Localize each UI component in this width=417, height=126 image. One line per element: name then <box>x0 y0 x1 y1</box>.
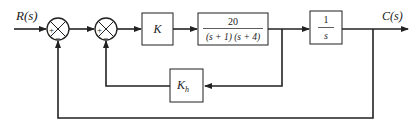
sum1-plus-sign: + <box>49 25 54 35</box>
summing-junction-2: + − <box>95 18 117 43</box>
plant-numerator: 20 <box>228 16 238 27</box>
gain-block: K <box>142 13 173 45</box>
block-diagram: R(s) + − + − K 20 (s + 1) (s + 4) 1 <box>0 0 417 126</box>
integrator-denominator: s <box>324 30 328 41</box>
gain-label: K <box>152 22 162 36</box>
input-label: R(s) <box>15 8 38 23</box>
feedback-gain-to-sum2-path <box>106 41 170 86</box>
sum2-plus-sign: + <box>97 25 102 35</box>
integrator-block: 1 s <box>310 11 342 44</box>
integrator-numerator: 1 <box>324 14 329 25</box>
plant-block: 20 (s + 1) (s + 4) <box>198 13 268 45</box>
summing-junction-1: + − <box>47 18 69 43</box>
plant-denominator: (s + 1) (s + 4) <box>206 32 260 43</box>
output-label: C(s) <box>382 9 403 23</box>
feedback-gain-block: Kh <box>170 69 203 102</box>
